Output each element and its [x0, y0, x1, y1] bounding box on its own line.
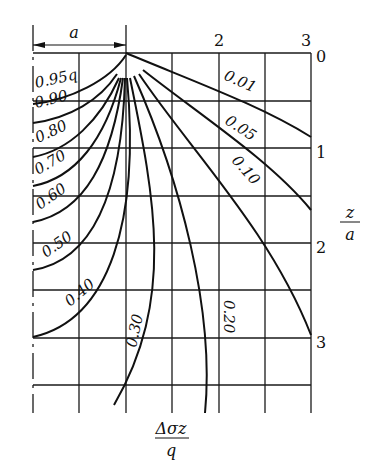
y-tick-2: 2 — [316, 238, 326, 257]
y-tick-0: 0 — [316, 47, 326, 66]
arrow-right-icon — [114, 42, 126, 48]
y-axis-label: z a — [340, 203, 360, 244]
x-tick-2: 2 — [214, 31, 224, 50]
contour-0.20 — [134, 76, 207, 413]
label-0.80: 0.80 — [32, 116, 70, 147]
x-ticks: 2 3 — [214, 31, 311, 50]
y-axis-denominator: a — [345, 225, 355, 244]
label-0.01: 0.01 — [221, 66, 259, 96]
dimension-label: a — [69, 23, 79, 42]
contour-0.30 — [114, 78, 154, 405]
x-axis-denominator: q — [166, 441, 176, 460]
label-0.20: 0.20 — [220, 300, 238, 334]
x-tick-3: 3 — [301, 31, 311, 50]
label-0.50: 0.50 — [38, 227, 76, 261]
y-ticks: 0 1 2 3 — [316, 47, 326, 352]
contour-0.10 — [139, 74, 311, 335]
x-axis-numerator: Δσz — [155, 419, 187, 438]
label-0.05: 0.05 — [222, 111, 260, 144]
label-0.10: 0.10 — [228, 152, 264, 189]
contour-0.05 — [143, 70, 311, 210]
stress-isobar-diagram: a 0.95q 0.90 0.80 0.70 0.60 0.50 0.40 0.… — [0, 0, 379, 465]
x-axis-label: Δσz q — [155, 419, 189, 460]
y-tick-1: 1 — [316, 143, 326, 162]
dimension-a: a — [33, 23, 126, 48]
label-0.40: 0.40 — [61, 275, 99, 311]
arrow-left-icon — [33, 42, 45, 48]
y-axis-numerator: z — [345, 203, 355, 222]
y-tick-3: 3 — [316, 333, 326, 352]
